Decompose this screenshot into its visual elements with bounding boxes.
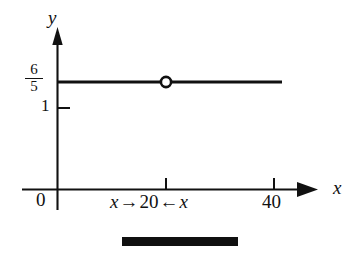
limit-graph-figure: y x 0 6 5 1 40 x→20←x [0, 0, 362, 257]
x-tick-label-40: 40 [262, 192, 281, 211]
y-tick-label-1: 1 [41, 97, 50, 114]
graph-canvas [0, 0, 362, 257]
fraction-numerator: 6 [25, 62, 43, 77]
limit-target-value: 20 [139, 191, 158, 212]
open-circle-hole-marker [161, 77, 171, 87]
x-axis-label: x [333, 178, 341, 197]
limit-right-arrow-icon: → [118, 191, 139, 212]
y-axis-arrowhead [52, 27, 62, 45]
x-axis-arrowhead [297, 182, 318, 197]
limit-left-arrow-icon: ← [158, 191, 179, 212]
y-axis-label: y [48, 8, 56, 27]
limit-right-variable: x [179, 191, 187, 212]
fraction-denominator: 5 [25, 79, 43, 94]
bottom-rule-bar [122, 237, 238, 246]
y-value-fraction-label: 6 5 [25, 62, 43, 95]
limit-annotation: x→20←x [110, 192, 188, 211]
origin-label: 0 [36, 190, 46, 209]
